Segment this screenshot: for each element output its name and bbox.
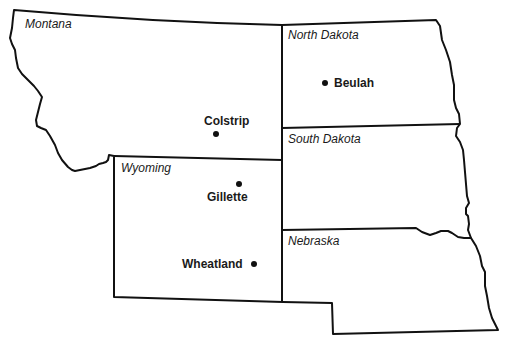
- city-marker-gillette: [236, 181, 242, 187]
- state-label-montana: Montana: [25, 17, 72, 31]
- state-label-south-dakota: South Dakota: [288, 132, 361, 146]
- city-marker-beulah: [322, 80, 328, 86]
- city-label-colstrip: Colstrip: [204, 114, 249, 128]
- city-label-gillette: Gillette: [207, 190, 248, 204]
- border-mt-wy: [114, 156, 282, 160]
- city-label-wheatland: Wheatland: [182, 257, 243, 271]
- state-borders-map: [0, 0, 507, 348]
- state-label-north-dakota: North Dakota: [288, 28, 359, 42]
- state-label-nebraska: Nebraska: [288, 234, 339, 248]
- city-marker-colstrip: [213, 131, 219, 137]
- outer-boundary: [10, 10, 498, 334]
- border-nd-sd: [282, 124, 460, 128]
- state-label-wyoming: Wyoming: [121, 161, 171, 175]
- city-label-beulah: Beulah: [334, 76, 374, 90]
- city-marker-wheatland: [251, 261, 257, 267]
